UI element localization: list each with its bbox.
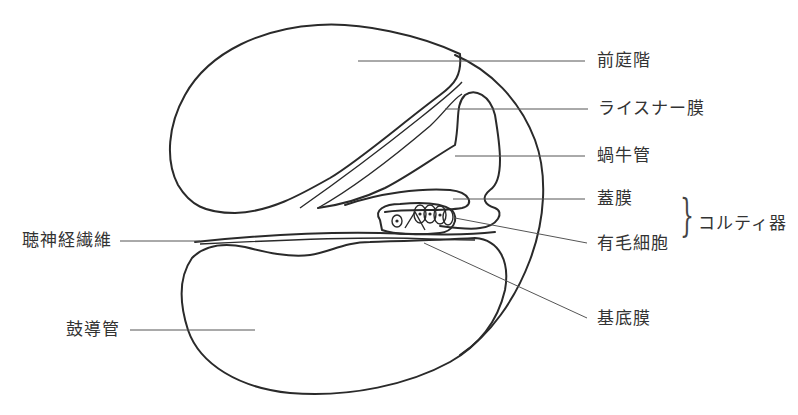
label-hair-cells: 有毛細胞 [597, 235, 669, 252]
label-scala-tympani: 鼓導管 [66, 321, 120, 338]
label-tectorial-membrane: 蓋膜 [597, 190, 633, 207]
organ-of-corti-bracket: } [680, 194, 694, 238]
scala-vestibuli-outline [170, 25, 460, 213]
cochlea-drawing [0, 0, 798, 415]
label-cochlear-duct: 蝸牛管 [597, 147, 651, 164]
label-basilar-membrane: 基底膜 [597, 310, 651, 327]
cut-off-caption [330, 406, 480, 415]
label-scala-vestibuli: 前庭階 [597, 52, 651, 69]
label-reissner-membrane: ライスナー膜 [598, 100, 705, 117]
reissner-membrane-line-2 [318, 94, 462, 208]
label-organ-of-corti: コルティ器 [698, 215, 787, 232]
auditory-nerve-line [195, 232, 495, 242]
scala-tympani-outline [182, 238, 507, 394]
label-auditory-nerve-fibers: 聴神経繊維 [22, 232, 112, 249]
leader-hair-cells [455, 218, 587, 243]
cochlea-diagram: 前庭階 ライスナー膜 蝸牛管 蓋膜 有毛細胞 基底膜 聴神経繊維 鼓導管 } コ… [0, 0, 798, 415]
cochlear-duct-outline [318, 92, 500, 228]
